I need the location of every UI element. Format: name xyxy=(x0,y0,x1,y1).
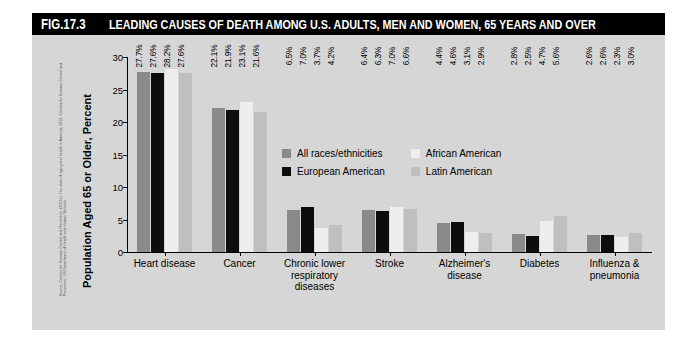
bar-value-label: 4.7% xyxy=(537,47,547,66)
chart-panel: Source: Centers for Disease Control and … xyxy=(32,35,665,330)
legend-item[interactable]: Latin American xyxy=(411,166,502,177)
bar-value-label: 6.6% xyxy=(401,47,411,66)
x-axis-label-line: Alzheimer's xyxy=(427,258,502,270)
x-axis-label-line: Stroke xyxy=(352,258,427,270)
bar-item[interactable]: 2.8% xyxy=(512,57,525,252)
bar-group: 22.1%21.9%23.1%21.6% xyxy=(202,57,277,252)
bar-value-label: 6.4% xyxy=(359,47,369,66)
bar-value-label: 4.2% xyxy=(326,47,336,66)
bar[interactable] xyxy=(254,112,267,252)
bar-value-label: 7.0% xyxy=(387,47,397,66)
bar-item[interactable]: 22.1% xyxy=(212,57,225,252)
bar-item[interactable]: 21.9% xyxy=(226,57,239,252)
bar[interactable] xyxy=(437,223,450,252)
y-axis-title: Population Aged 65 or Older, Percent xyxy=(81,84,93,299)
bar-item[interactable]: 21.6% xyxy=(254,57,267,252)
bar[interactable] xyxy=(479,233,492,252)
bar-item[interactable]: 2.5% xyxy=(526,57,539,252)
x-tick-mark xyxy=(240,252,241,256)
bar[interactable] xyxy=(540,221,553,252)
bar-item[interactable]: 23.1% xyxy=(240,57,253,252)
bar-value-label: 6.5% xyxy=(284,47,294,66)
figure-container: FIG.17.3 LEADING CAUSES OF DEATH AMONG U… xyxy=(32,13,665,330)
bar-value-label: 21.9% xyxy=(223,44,233,67)
legend-label: European American xyxy=(297,166,385,177)
legend-swatch xyxy=(411,167,420,176)
bar-value-label: 7.0% xyxy=(298,47,308,66)
bar-value-label: 5.6% xyxy=(551,47,561,66)
bar[interactable] xyxy=(404,209,417,252)
bar-group-bars: 2.8%2.5%4.7%5.6% xyxy=(502,57,577,252)
bar-value-label: 22.1% xyxy=(209,44,219,67)
y-axis-ticks: 051015202530 xyxy=(103,57,123,252)
bar[interactable] xyxy=(165,69,178,252)
bar-group: 27.7%27.6%28.2%27.6% xyxy=(127,57,202,252)
bar-item[interactable]: 5.6% xyxy=(554,57,567,252)
bar[interactable] xyxy=(376,211,389,252)
x-axis-label-line: Diabetes xyxy=(502,258,577,270)
bar-group: 2.8%2.5%4.7%5.6% xyxy=(502,57,577,252)
bar[interactable] xyxy=(179,73,192,252)
bar[interactable] xyxy=(601,235,614,252)
bar[interactable] xyxy=(212,108,225,252)
bar-value-label: 4.4% xyxy=(434,47,444,66)
x-tick-mark xyxy=(165,252,166,256)
bar[interactable] xyxy=(301,207,314,253)
bar-item[interactable]: 3.0% xyxy=(629,57,642,252)
legend-item[interactable]: All races/ethnicities xyxy=(282,148,385,159)
bar[interactable] xyxy=(315,228,328,252)
x-axis-label-line: Influenza & xyxy=(577,258,652,270)
legend-label: Latin American xyxy=(426,166,492,177)
x-axis-label: Alzheimer'sdisease xyxy=(427,258,502,298)
bar[interactable] xyxy=(329,225,342,252)
bar[interactable] xyxy=(287,210,300,252)
bar[interactable] xyxy=(226,110,239,252)
x-axis-label-line: Cancer xyxy=(202,258,277,270)
bar[interactable] xyxy=(615,237,628,252)
bar[interactable] xyxy=(554,216,567,252)
bar[interactable] xyxy=(390,207,403,253)
y-tick-label: 30 xyxy=(112,52,123,63)
x-tick-mark xyxy=(465,252,466,256)
legend-item[interactable]: European American xyxy=(282,166,385,177)
bar[interactable] xyxy=(137,72,150,252)
legend-item[interactable]: African American xyxy=(411,148,502,159)
x-axis-label-line: respiratory diseases xyxy=(277,270,352,293)
bar[interactable] xyxy=(465,232,478,252)
x-axis-label: Heart disease xyxy=(127,258,202,298)
bar[interactable] xyxy=(240,102,253,252)
bar-item[interactable]: 2.6% xyxy=(601,57,614,252)
bar-item[interactable]: 4.7% xyxy=(540,57,553,252)
bar[interactable] xyxy=(362,210,375,252)
bar-value-label: 2.5% xyxy=(523,47,533,66)
bar[interactable] xyxy=(629,233,642,253)
bar-group-bars: 2.6%2.6%2.3%3.0% xyxy=(577,57,652,252)
y-tick-label: 15 xyxy=(112,149,123,160)
bar[interactable] xyxy=(512,234,525,252)
legend-swatch xyxy=(282,167,291,176)
x-tick-mark xyxy=(390,252,391,256)
x-tick-mark xyxy=(540,252,541,256)
y-tick-label: 25 xyxy=(112,84,123,95)
y-tick-label: 20 xyxy=(112,117,123,128)
legend-label: All races/ethnicities xyxy=(297,148,383,159)
bar[interactable] xyxy=(526,236,539,252)
bar[interactable] xyxy=(151,73,164,252)
bar[interactable] xyxy=(587,235,600,252)
y-tick-mark xyxy=(123,252,128,253)
bar-item[interactable]: 2.3% xyxy=(615,57,628,252)
bar-item[interactable]: 27.6% xyxy=(151,57,164,252)
bar-group-bars: 27.7%27.6%28.2%27.6% xyxy=(127,57,202,252)
bar-group-bars: 22.1%21.9%23.1%21.6% xyxy=(202,57,277,252)
bar-value-label: 2.6% xyxy=(598,47,608,66)
bar-item[interactable]: 27.7% xyxy=(137,57,150,252)
bar-item[interactable]: 27.6% xyxy=(179,57,192,252)
bar-value-label: 6.3% xyxy=(373,47,383,66)
bar-value-label: 4.6% xyxy=(448,47,458,66)
figure-title-bar: FIG.17.3 LEADING CAUSES OF DEATH AMONG U… xyxy=(32,13,665,35)
bar[interactable] xyxy=(451,222,464,252)
bar-item[interactable]: 28.2% xyxy=(165,57,178,252)
chart-legend: All races/ethnicitiesAfrican AmericanEur… xyxy=(282,148,501,177)
bar-item[interactable]: 2.6% xyxy=(587,57,600,252)
legend-label: African American xyxy=(426,148,502,159)
